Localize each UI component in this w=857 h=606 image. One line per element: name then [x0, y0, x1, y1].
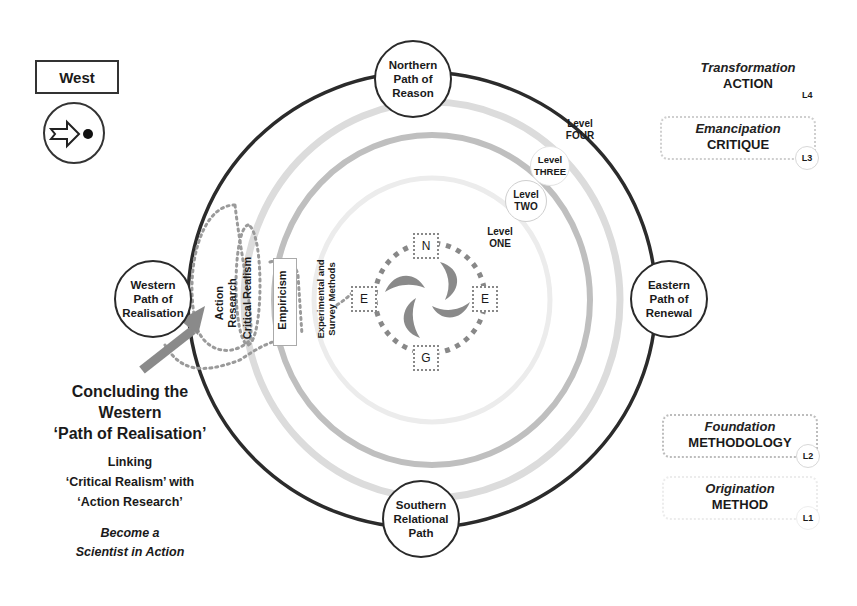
- stage-l1: Origination METHOD: [662, 476, 818, 520]
- stage-l1-badge: L1: [796, 506, 820, 530]
- stage-l2-badge: L2: [796, 444, 820, 468]
- level-one-label: Level ONE: [480, 226, 520, 250]
- stage-l3-badge: L3: [795, 146, 819, 170]
- stage-l4: Transformation ACTION: [688, 60, 808, 92]
- method-empiricism[interactable]: Empiricism: [276, 260, 292, 340]
- eastern-path-node[interactable]: Eastern Path of Renewal: [630, 260, 708, 338]
- caption-tag-1: Become a: [30, 524, 230, 543]
- direction-label: West: [35, 60, 119, 94]
- method-action-research[interactable]: Action Research: [213, 263, 243, 343]
- level-two-bubble: Level TWO: [505, 180, 547, 222]
- level-four-label: Level FOUR: [560, 118, 600, 142]
- swirl-icon: [385, 262, 470, 338]
- western-path-node[interactable]: Western Path of Realisation: [114, 260, 192, 338]
- compass-north-box[interactable]: N: [413, 233, 439, 259]
- caption-block: Concluding the Western ‘Path of Realisat…: [30, 381, 230, 562]
- southern-path-node[interactable]: Southern Relational Path: [382, 480, 460, 558]
- method-experimental-survey[interactable]: Experimental and Survey Methods: [315, 249, 341, 349]
- compass-east-box[interactable]: E: [472, 286, 498, 312]
- stage-l3: Emancipation CRITIQUE: [660, 116, 816, 160]
- caption-heading-1: Concluding the: [30, 381, 230, 402]
- caption-link-1: Linking: [30, 452, 230, 472]
- compass-dotted-ring: [375, 243, 485, 353]
- stage-l2: Foundation METHODOLOGY: [662, 414, 818, 458]
- compass-south-box[interactable]: G: [413, 345, 439, 371]
- caption-heading-2: Western: [30, 402, 230, 423]
- stage-l4-badge: L4: [802, 90, 813, 100]
- caption-tag-2: Scientist in Action: [30, 543, 230, 562]
- caption-heading-3: ‘Path of Realisation’: [30, 423, 230, 444]
- caption-link-3: ‘Action Research’: [30, 492, 230, 512]
- arrow-into-dot-icon: [43, 102, 105, 164]
- level-three-bubble: Level THREE: [530, 146, 570, 186]
- compass-west-box[interactable]: E: [351, 286, 377, 312]
- caption-link-2: ‘Critical Realism’ with: [30, 472, 230, 492]
- method-critical-realism[interactable]: Critical Realism: [241, 253, 257, 343]
- northern-path-node[interactable]: Northern Path of Reason: [374, 40, 452, 118]
